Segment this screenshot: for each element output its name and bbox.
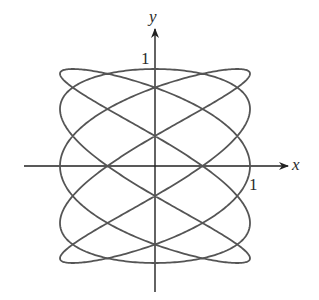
y-axis-label: y xyxy=(149,8,157,25)
lissajous-plot xyxy=(0,0,319,300)
y-tick-label-1: 1 xyxy=(141,50,150,67)
x-tick-label-1: 1 xyxy=(249,176,258,193)
x-axis-label: x xyxy=(292,156,300,173)
